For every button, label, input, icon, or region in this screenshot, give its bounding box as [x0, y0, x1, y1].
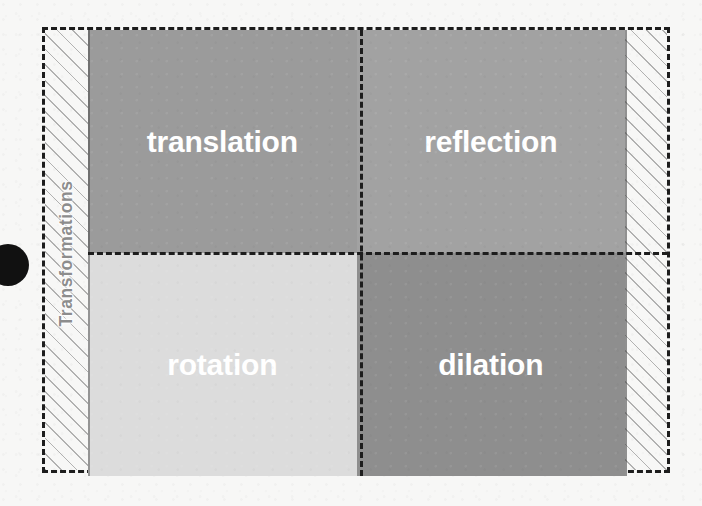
quadrant-rotation[interactable]: rotation	[88, 253, 357, 476]
quadrant-label-reflection: reflection	[424, 127, 557, 157]
dashed-outer-frame: Transformations translation reflection r…	[42, 27, 670, 473]
quadrant-translation[interactable]: translation	[88, 30, 357, 253]
quadrant-label-translation: translation	[147, 127, 298, 157]
quadrant-dilation[interactable]: dilation	[357, 253, 626, 476]
hatched-band-left	[45, 30, 88, 470]
divider-horizontal-dashed	[88, 252, 668, 255]
quadrant-reflection[interactable]: reflection	[357, 30, 626, 253]
quadrant-label-rotation: rotation	[167, 350, 277, 380]
quadrant-label-dilation: dilation	[438, 350, 543, 380]
corner-dot-marker	[0, 244, 29, 286]
figure-canvas: Transformations translation reflection r…	[0, 0, 702, 506]
